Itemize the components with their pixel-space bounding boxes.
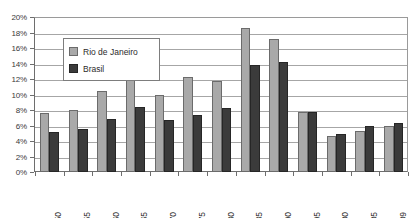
bar-chart: 0%2%4%6%8%10%12%14%16%18%20% 19501955196… bbox=[0, 0, 416, 218]
x-axis-tick-labels: 1950195519601965197019751980198519901995… bbox=[35, 178, 408, 216]
x-axis-tick-mark bbox=[92, 172, 93, 176]
legend: Rio de Janeiro Brasil bbox=[63, 38, 160, 81]
x-axis-tick-mark bbox=[64, 172, 65, 176]
x-axis-tick-mark bbox=[379, 172, 380, 176]
x-axis-tick-mark bbox=[178, 172, 179, 176]
y-axis-tick-label: 6% bbox=[16, 121, 27, 130]
x-axis-tick-mark bbox=[236, 172, 237, 176]
x-axis-tick-mark bbox=[408, 172, 409, 176]
legend-item-rio-de-janeiro: Rio de Janeiro bbox=[69, 43, 154, 60]
y-axis-tick-label: 16% bbox=[12, 44, 27, 53]
x-axis-tick-mark bbox=[322, 172, 323, 176]
x-axis-tick-mark bbox=[121, 172, 122, 176]
x-axis-tick-mark bbox=[207, 172, 208, 176]
bar-group bbox=[183, 17, 202, 172]
x-axis-tick-label: 1955 bbox=[82, 212, 92, 218]
x-axis-tick-label: 2009 bbox=[398, 212, 408, 218]
y-axis-tick-label: 0% bbox=[16, 168, 27, 177]
bar-brasil[interactable] bbox=[164, 120, 174, 172]
bar-rio-de-janeiro[interactable] bbox=[384, 126, 394, 172]
x-axis-tick-mark bbox=[293, 172, 294, 176]
bar-rio-de-janeiro[interactable] bbox=[69, 110, 79, 172]
legend-swatch-icon-rio-de-janeiro bbox=[69, 47, 78, 56]
y-axis-tick-label: 10% bbox=[12, 90, 27, 99]
bar-group bbox=[298, 17, 317, 172]
y-axis-tick-label: 4% bbox=[16, 137, 27, 146]
bar-rio-de-janeiro[interactable] bbox=[269, 39, 279, 172]
bar-group bbox=[241, 17, 260, 172]
x-axis-tick-mark bbox=[265, 172, 266, 176]
bar-brasil[interactable] bbox=[193, 115, 203, 172]
x-axis-tick-label: 1980 bbox=[226, 212, 236, 218]
bar-rio-de-janeiro[interactable] bbox=[126, 77, 136, 172]
bar-group bbox=[40, 17, 59, 172]
x-axis-tick-mark bbox=[351, 172, 352, 176]
bar-brasil[interactable] bbox=[49, 132, 59, 172]
bar-brasil[interactable] bbox=[135, 107, 145, 172]
bar-group bbox=[355, 17, 374, 172]
y-axis-tick-label: 20% bbox=[12, 13, 27, 22]
y-axis-tick-label: 12% bbox=[12, 75, 27, 84]
bar-group bbox=[269, 17, 288, 172]
x-axis-tick-label: 1990 bbox=[283, 212, 293, 218]
x-axis-tick-label: 2005 bbox=[369, 212, 379, 218]
x-axis-tick-label: 2000 bbox=[340, 212, 350, 218]
bar-rio-de-janeiro[interactable] bbox=[241, 28, 251, 172]
y-axis-tick-label: 2% bbox=[16, 152, 27, 161]
bar-brasil[interactable] bbox=[394, 123, 404, 172]
x-axis-tick-label: 1995 bbox=[312, 212, 322, 218]
y-axis-tick-label: 14% bbox=[12, 59, 27, 68]
bar-rio-de-janeiro[interactable] bbox=[327, 136, 337, 172]
bar-brasil[interactable] bbox=[250, 65, 260, 172]
bar-rio-de-janeiro[interactable] bbox=[183, 77, 193, 172]
legend-label-brasil: Brasil bbox=[83, 64, 104, 74]
bar-rio-de-janeiro[interactable] bbox=[298, 112, 308, 172]
bar-rio-de-janeiro[interactable] bbox=[355, 131, 365, 172]
x-axis-tick-mark bbox=[150, 172, 151, 176]
x-axis-tick-marks bbox=[34, 172, 408, 177]
legend-swatch-icon-brasil bbox=[69, 64, 78, 73]
x-axis-tick-label: 1950 bbox=[53, 212, 63, 218]
bar-group bbox=[212, 17, 231, 172]
bar-rio-de-janeiro[interactable] bbox=[155, 95, 165, 172]
y-axis-tick-label: 18% bbox=[12, 28, 27, 37]
legend-item-brasil: Brasil bbox=[69, 60, 154, 77]
bar-brasil[interactable] bbox=[107, 119, 117, 172]
bar-brasil[interactable] bbox=[222, 108, 232, 172]
bar-brasil[interactable] bbox=[279, 62, 289, 172]
bar-brasil[interactable] bbox=[365, 126, 375, 173]
x-axis-tick-label: 1970 bbox=[168, 212, 178, 218]
bar-brasil[interactable] bbox=[336, 134, 346, 172]
x-axis-tick-label: 1975 bbox=[197, 212, 207, 218]
x-axis-tick-label: 1965 bbox=[139, 212, 149, 218]
bar-brasil[interactable] bbox=[308, 112, 318, 172]
y-axis-tick-labels: 0%2%4%6%8%10%12%14%16%18%20% bbox=[0, 17, 32, 172]
y-axis-tick-label: 8% bbox=[16, 106, 27, 115]
bar-brasil[interactable] bbox=[78, 129, 88, 172]
x-axis-tick-label: 1960 bbox=[111, 212, 121, 218]
bar-rio-de-janeiro[interactable] bbox=[212, 81, 222, 172]
bar-group bbox=[384, 17, 403, 172]
legend-label-rio-de-janeiro: Rio de Janeiro bbox=[83, 47, 138, 57]
bar-rio-de-janeiro[interactable] bbox=[40, 113, 50, 172]
bar-rio-de-janeiro[interactable] bbox=[97, 91, 107, 172]
bar-group bbox=[327, 17, 346, 172]
x-axis-tick-label: 1985 bbox=[254, 212, 264, 218]
x-axis-tick-mark bbox=[35, 172, 36, 176]
